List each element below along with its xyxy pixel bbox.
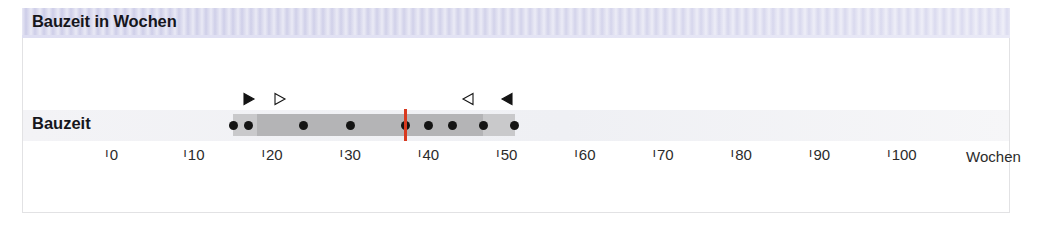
tick-mark-icon: ı [105,145,109,160]
tick-mark-icon: ı [261,145,265,160]
tick-mark-icon: ı [887,145,891,160]
axis-tick-label: 60 [579,146,596,163]
tick-mark-icon: ı [809,145,813,160]
axis-tick-100: ı100 [887,146,917,163]
chart-header-band: Bauzeit in Wochen [22,8,1010,38]
axis-tick-40: ı40 [418,146,439,163]
axis-tick-label: 100 [892,146,917,163]
axis-tick-label: 0 [110,146,118,163]
tick-mark-icon: ı [574,145,578,160]
axis-tick-10: ı10 [183,146,204,163]
axis-tick-60: ı60 [574,146,595,163]
chart-figure: Bauzeit in Wochen Bauzeit ı0ı10ı20ı30ı40… [0,0,1040,232]
page-title: Bauzeit in Wochen [32,12,177,31]
axis-tick-0: ı0 [105,146,118,163]
axis-tick-30: ı30 [340,146,361,163]
tick-mark-icon: ı [183,145,187,160]
tick-mark-icon: ı [652,145,656,160]
axis-tick-50: ı50 [496,146,517,163]
tick-mark-icon: ı [496,145,500,160]
axis-tick-label: 70 [657,146,674,163]
row-label-bauzeit: Bauzeit [32,114,91,133]
axis-tick-70: ı70 [652,146,673,163]
x-axis: ı0ı10ı20ı30ı40ı50ı60ı70ı80ı90ı100 [0,146,1040,168]
axis-unit-label: Wochen [966,148,1021,165]
axis-tick-90: ı90 [809,146,830,163]
axis-tick-label: 50 [501,146,518,163]
tick-mark-icon: ı [731,145,735,160]
row-band [23,110,1009,141]
axis-tick-label: 30 [344,146,361,163]
tick-mark-icon: ı [418,145,422,160]
axis-tick-80: ı80 [731,146,752,163]
axis-tick-label: 80 [735,146,752,163]
axis-tick-label: 20 [266,146,283,163]
axis-tick-label: 40 [422,146,439,163]
axis-tick-label: 10 [188,146,205,163]
axis-tick-label: 90 [813,146,830,163]
axis-tick-20: ı20 [261,146,282,163]
tick-mark-icon: ı [340,145,344,160]
